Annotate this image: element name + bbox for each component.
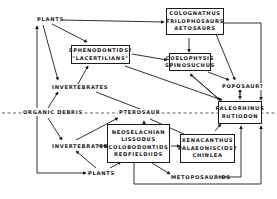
node-coelophysis-line1: COELOPHYSIS [166,55,214,63]
node-neoselachian-line2: LISSODUS [121,136,156,144]
node-xenacanthus-line2: PALAEONISCIDS? [178,145,237,153]
node-paleorhinus-box: PALEORHINUS RUTIODON [218,101,262,124]
node-neoselachian-line4: REDFIELDIIDS [114,151,163,159]
node-invertebrates-top: INVERTEBRATES [52,84,108,91]
node-sphenodontids-box: SPHENODONTIDS? "LACERTILIANS" [71,45,130,64]
node-xenacanthus-line3: CHINLEA [192,152,222,160]
arrow-connections [0,0,277,199]
node-neoselachian-box: NEOSELACHIAN LISSODUS COLOBODONTIDS REDF… [107,124,170,163]
node-coelognathus-line3: AETOSAURS [174,25,215,33]
node-paleorhinus-line1: PALEORHINUS [216,105,265,113]
node-invertebrates-bottom: INVERTEBRATES [52,143,108,150]
node-xenacanthus-box: XENACANTHUS PALAEONISCIDS? CHINLEA [180,134,235,163]
node-pterosaur: PTEROSAUR [118,109,161,116]
node-neoselachian-line1: NEOSELACHIAN [112,129,166,137]
node-sphenodontids-line2: "LACERTILIANS" [72,55,128,63]
node-sphenodontids-line1: SPHENODONTIDS? [69,47,133,55]
node-metoposaurids: METOPOSAURIDS [171,174,231,181]
node-plants-top: PLANTS [37,16,64,23]
node-organic-debris: ORGANIC DEBRIS [22,109,84,116]
node-paleorhinus-line2: RUTIODON [222,113,259,121]
node-coelophysis-box: COELOPHYSIS SPINOSUCHUS [169,53,211,71]
node-coelognathus-line1: COLOGNATHUS [169,10,221,18]
node-neoselachian-line3: COLOBODONTIDS [109,144,169,152]
node-plants-bottom: PLANTS [88,170,115,177]
node-coelophysis-line2: SPINOSUCHUS [165,62,215,70]
node-coelognathus-line2: TRILOPHOSAURS [166,18,224,26]
node-coelognathus-box: COLOGNATHUS TRILOPHOSAURS AETOSAURS [166,8,224,35]
node-xenacanthus-line1: XENACANTHUS [182,137,234,145]
node-poposaur: POPOSAUR? [222,83,264,90]
